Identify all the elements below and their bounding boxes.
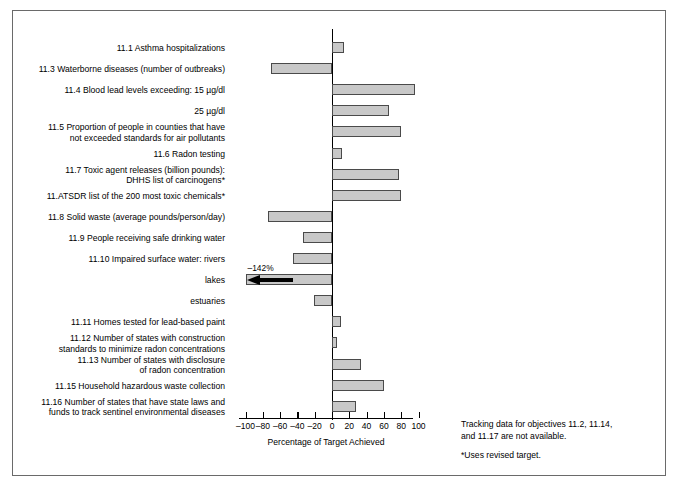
bar-row: 11.15 Household hazardous waste collecti… (13, 377, 665, 397)
bar-row-label: 11.5 Proportion of people in counties th… (0, 122, 225, 142)
bar-row: 11.8 Solid waste (average pounds/person/… (13, 208, 665, 228)
x-axis-title: Percentage of Target Achieved (239, 437, 413, 447)
bar-row-label: 11.7 Toxic agent releases (billion pound… (0, 165, 225, 185)
bar (271, 63, 332, 74)
bar (268, 211, 332, 222)
bar-row-label: 11.16 Number of states that have state l… (0, 397, 225, 417)
bar-row-label: 11.4 Blood lead levels exceeding: 15 µg/… (0, 85, 225, 95)
bar-row: 11.10 Impaired surface water: rivers (13, 250, 665, 270)
bar-row: 11.3 Waterborne diseases (number of outb… (13, 60, 665, 80)
bar-row-label: 11.11 Homes tested for lead-based paint (0, 317, 225, 327)
bar (332, 169, 399, 180)
note-line-1: Tracking data for objectives 11.2, 11.14… (461, 419, 661, 431)
arrow-shaft (259, 278, 293, 282)
bar-row: 11.4 Blood lead levels exceeding: 15 µg/… (13, 81, 665, 101)
bar (332, 190, 401, 201)
bar (332, 105, 389, 116)
bar-row: 11.13 Number of states with disclosure o… (13, 356, 665, 376)
bar-row: lakes–142% (13, 271, 665, 291)
bar (303, 232, 332, 243)
chart-notes: Tracking data for objectives 11.2, 11.14… (461, 419, 661, 462)
bar-row: 11.11 Homes tested for lead-based paint (13, 313, 665, 333)
offscale-arrow-icon (247, 274, 295, 285)
bar-row: 11.6 Radon testing (13, 145, 665, 165)
offscale-value-label: –142% (248, 263, 274, 273)
bar-row-label: 25 µg/dl (0, 106, 225, 116)
x-tick-label: 100 (404, 421, 434, 431)
bar (314, 295, 332, 306)
bar-chart-plot: –100–80–60–40–20020406080100 Percentage … (13, 11, 665, 475)
bar (332, 401, 356, 412)
bar-row: 11.ATSDR list of the 200 most toxic chem… (13, 187, 665, 207)
bar-row-label: 11.1 Asthma hospitalizations (0, 43, 225, 53)
bar-row-label: estuaries (0, 296, 225, 306)
bar (332, 337, 337, 348)
bar-row-label: 11.3 Waterborne diseases (number of outb… (0, 64, 225, 74)
bar-row-label: 11.10 Impaired surface water: rivers (0, 254, 225, 264)
bar-row-label: 11.ATSDR list of the 200 most toxic chem… (0, 191, 225, 201)
chart-frame: –100–80–60–40–20020406080100 Percentage … (12, 10, 666, 476)
bar-row: 25 µg/dl (13, 102, 665, 122)
bar (293, 253, 332, 264)
bar-row-label: 11.9 People receiving safe drinking wate… (0, 233, 225, 243)
bar (332, 148, 342, 159)
bar-row-label: 11.15 Household hazardous waste collecti… (0, 381, 225, 391)
bar (332, 126, 401, 137)
bar-row: 11.12 Number of states with construction… (13, 334, 665, 354)
note-footnote: *Uses revised target. (461, 450, 661, 462)
bar-row: estuaries (13, 292, 665, 312)
bar-row: 11.9 People receiving safe drinking wate… (13, 229, 665, 249)
bar-row: 11.5 Proportion of people in counties th… (13, 123, 665, 143)
bar-row: 11.1 Asthma hospitalizations (13, 39, 665, 59)
note-line-2: and 11.17 are not available. (461, 431, 661, 443)
bar-row: 11.16 Number of states that have state l… (13, 398, 665, 418)
bar (332, 84, 415, 95)
bar (332, 316, 341, 327)
bar (332, 359, 361, 370)
bar (332, 42, 344, 53)
bar-row-label: 11.13 Number of states with disclosure o… (0, 355, 225, 375)
bar-row-label: 11.6 Radon testing (0, 149, 225, 159)
bar-row-label: 11.12 Number of states with construction… (0, 333, 225, 353)
bar-row-label: 11.8 Solid waste (average pounds/person/… (0, 212, 225, 222)
bar-row-label: lakes (0, 275, 225, 285)
bar-row: 11.7 Toxic agent releases (billion pound… (13, 166, 665, 186)
bar (332, 380, 384, 391)
